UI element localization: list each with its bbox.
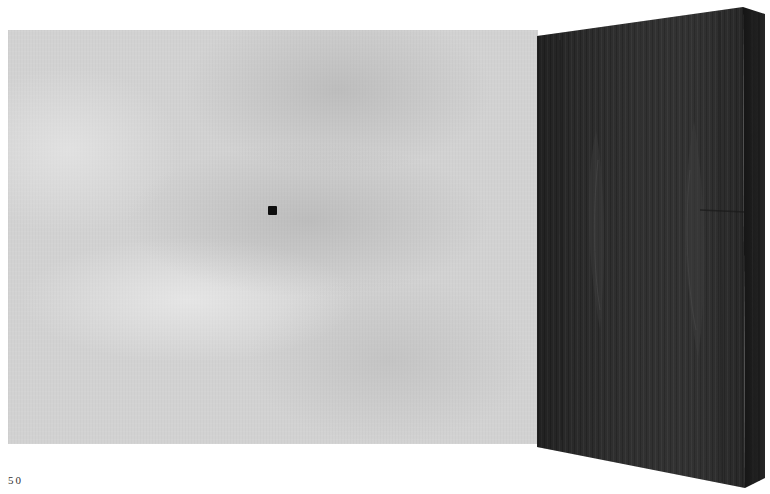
- wood-slab: [0, 0, 770, 494]
- wood-side-face: [743, 7, 765, 488]
- wood-front-face: [537, 7, 745, 488]
- page-number: 50: [8, 474, 23, 486]
- artwork-plate: [0, 0, 770, 494]
- book-page: 50: [0, 0, 770, 494]
